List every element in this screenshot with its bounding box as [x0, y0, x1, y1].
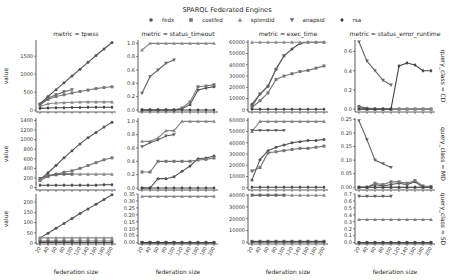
- svg-text:160: 160: [191, 246, 200, 256]
- svg-text:1000: 1000: [20, 136, 33, 142]
- svg-text:60000: 60000: [229, 117, 245, 123]
- svg-text:160: 160: [408, 246, 417, 256]
- svg-text:10000: 10000: [229, 95, 245, 101]
- svg-text:200: 200: [23, 199, 33, 205]
- svg-text:200: 200: [207, 246, 216, 256]
- svg-text:60: 60: [262, 246, 269, 254]
- svg-text:40000: 40000: [229, 140, 245, 146]
- svg-text:60: 60: [152, 246, 159, 254]
- svg-text:1500: 1500: [20, 53, 33, 59]
- svg-text:200: 200: [105, 246, 114, 256]
- svg-text:140: 140: [81, 246, 90, 256]
- svg-text:180: 180: [199, 246, 208, 256]
- svg-text:200: 200: [424, 246, 433, 256]
- svg-text:60: 60: [50, 246, 57, 254]
- svg-text:0.2: 0.2: [344, 87, 352, 93]
- svg-text:0.4: 0.4: [344, 212, 352, 218]
- svg-text:40: 40: [144, 246, 151, 254]
- svg-text:20000: 20000: [229, 162, 245, 168]
- svg-text:180: 180: [97, 246, 106, 256]
- svg-text:0: 0: [242, 239, 245, 245]
- facet-MD-status_timeout: 0.00.20.40.60.81.0: [127, 118, 218, 192]
- svg-text:400: 400: [23, 165, 33, 171]
- x-axis-label: federation size: [54, 268, 99, 275]
- svg-text:20: 20: [34, 246, 41, 254]
- svg-text:30000: 30000: [229, 204, 245, 210]
- facet-SD-status_error_runtime: 0.00.10.20.30.40.50.60.72040608010012014…: [344, 191, 435, 257]
- facet-SD-tpwss: 05010015020020406080100120140160180200: [23, 193, 116, 256]
- svg-text:100: 100: [23, 219, 33, 225]
- svg-text:160: 160: [301, 246, 310, 256]
- svg-text:0.2: 0.2: [127, 171, 135, 177]
- svg-text:140: 140: [400, 246, 409, 256]
- svg-text:10000: 10000: [229, 227, 245, 233]
- svg-text:0.0: 0.0: [127, 107, 135, 113]
- svg-text:0.10: 0.10: [124, 226, 135, 232]
- svg-text:0.6: 0.6: [344, 48, 352, 54]
- row-label: query_class = MD: [439, 127, 447, 181]
- svg-text:150: 150: [23, 209, 33, 215]
- svg-text:200: 200: [23, 175, 33, 181]
- x-axis-label: federation size: [266, 268, 311, 275]
- svg-text:60: 60: [369, 246, 376, 254]
- svg-text:50000: 50000: [229, 128, 245, 134]
- facet-title: metric = status_error_runtime: [350, 30, 441, 38]
- svg-text:600: 600: [23, 156, 33, 162]
- svg-text:0.6: 0.6: [344, 198, 352, 204]
- svg-text:0.7: 0.7: [344, 191, 352, 197]
- svg-text:40000: 40000: [229, 192, 245, 198]
- svg-text:0: 0: [242, 185, 245, 191]
- svg-text:40: 40: [42, 246, 49, 254]
- svg-text:0.2: 0.2: [344, 226, 352, 232]
- row-label: query_class = CD: [439, 50, 447, 103]
- svg-text:160: 160: [89, 246, 98, 256]
- facet-CD-exec_time: 0100002000030000400005000060000: [229, 39, 328, 114]
- y-axis-label: value: [2, 210, 9, 227]
- svg-text:0.4: 0.4: [344, 68, 352, 74]
- svg-text:20: 20: [136, 246, 143, 254]
- svg-text:0.6: 0.6: [127, 67, 135, 73]
- svg-text:100: 100: [384, 246, 393, 256]
- svg-text:100: 100: [277, 246, 286, 256]
- facet-CD-tpwss: 050010001500: [20, 40, 116, 114]
- svg-text:0.05: 0.05: [341, 170, 352, 176]
- svg-text:0.5: 0.5: [344, 205, 352, 211]
- row-label: query_class = SD: [439, 193, 447, 246]
- svg-text:30000: 30000: [229, 73, 245, 79]
- svg-text:0.30: 0.30: [124, 198, 135, 204]
- x-axis-label: federation size: [156, 268, 201, 275]
- svg-text:20: 20: [246, 246, 253, 254]
- svg-text:0: 0: [30, 107, 33, 113]
- svg-text:0.15: 0.15: [124, 219, 135, 225]
- svg-text:140: 140: [183, 246, 192, 256]
- svg-text:0.35: 0.35: [124, 191, 135, 197]
- svg-text:140: 140: [293, 246, 302, 256]
- svg-text:1.0: 1.0: [127, 118, 135, 124]
- svg-text:1.0: 1.0: [127, 40, 135, 46]
- svg-text:40000: 40000: [229, 62, 245, 68]
- svg-text:20: 20: [353, 246, 360, 254]
- facet-SD-status_timeout: 0.000.050.100.150.200.250.300.3520406080…: [124, 191, 218, 257]
- svg-text:40: 40: [254, 246, 261, 254]
- svg-text:10000: 10000: [229, 173, 245, 179]
- facet-title: metric = tpwss: [53, 30, 98, 38]
- svg-text:20000: 20000: [229, 216, 245, 222]
- svg-text:0.0: 0.0: [344, 106, 352, 112]
- svg-text:0.25: 0.25: [124, 205, 135, 211]
- svg-text:0.00: 0.00: [124, 239, 135, 245]
- facet-chart: SPARQL Federated Engines fedxcostfedsple…: [0, 0, 454, 280]
- svg-text:0.0: 0.0: [344, 239, 352, 245]
- svg-text:800: 800: [23, 146, 33, 152]
- svg-text:50: 50: [27, 230, 33, 236]
- svg-text:180: 180: [309, 246, 318, 256]
- svg-text:120: 120: [392, 246, 401, 256]
- svg-text:180: 180: [416, 246, 425, 256]
- svg-text:40: 40: [361, 246, 368, 254]
- svg-text:0.3: 0.3: [344, 219, 352, 225]
- svg-text:0: 0: [30, 184, 33, 190]
- svg-text:200: 200: [317, 246, 326, 256]
- svg-text:0.1: 0.1: [344, 232, 352, 238]
- svg-text:120: 120: [285, 246, 294, 256]
- svg-text:1000: 1000: [20, 71, 33, 77]
- svg-text:20000: 20000: [229, 84, 245, 90]
